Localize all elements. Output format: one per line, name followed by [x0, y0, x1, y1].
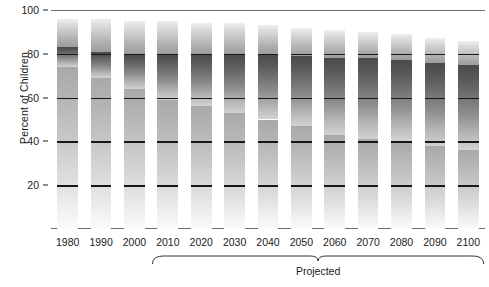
projected-bracket [0, 0, 489, 287]
bracket-path [152, 256, 483, 264]
projected-label: Projected [296, 265, 340, 277]
chart-root: Percent of Children 20406080100 19801990… [0, 0, 489, 287]
